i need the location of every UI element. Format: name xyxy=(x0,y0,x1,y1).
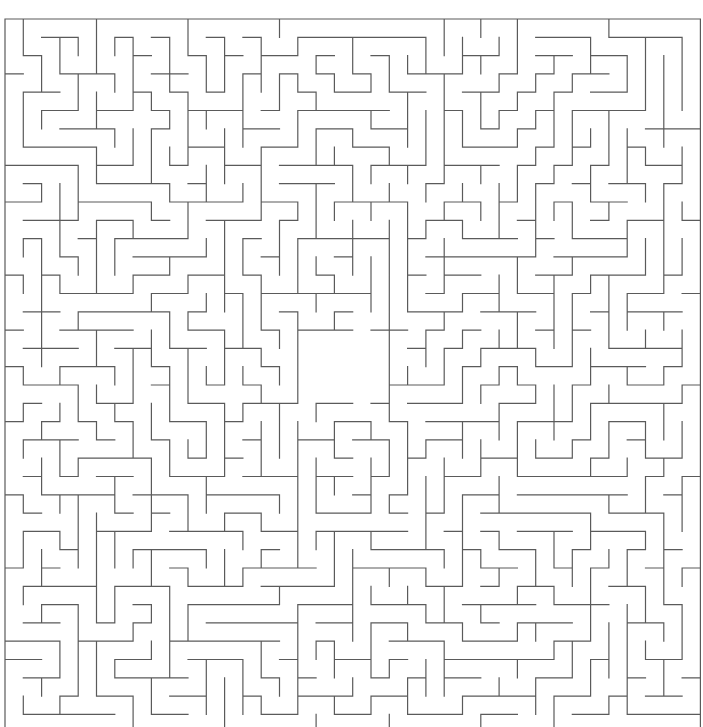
maze-background xyxy=(0,0,703,727)
maze-page: fall. xyxy=(0,0,703,727)
maze-grid xyxy=(0,0,703,727)
maze-figure xyxy=(0,0,703,727)
